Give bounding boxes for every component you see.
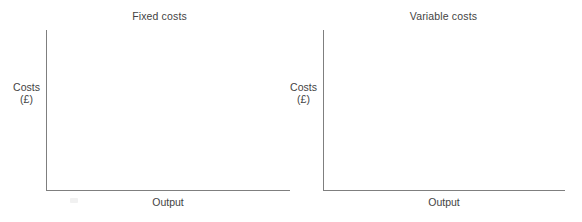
chart-title-fixed-costs: Fixed costs [0,10,291,23]
scan-artifact [70,198,78,203]
chart-title-variable-costs: Variable costs [291,10,582,23]
y-axis-unit-text: (£) [8,94,45,106]
x-axis-line-fixed-costs [46,190,290,191]
x-axis-label-variable-costs: Output [323,196,565,209]
y-axis-label-text: Costs [13,81,40,93]
x-axis-line-variable-costs [323,190,565,191]
worksheet-canvas: Fixed costs Costs (£) Output Variable co… [0,0,582,222]
y-axis-label-variable-costs: Costs (£) [285,82,322,105]
plot-area-variable-costs [324,30,565,190]
plot-area-fixed-costs [47,30,290,190]
y-axis-unit-text: (£) [285,94,322,106]
x-axis-label-fixed-costs: Output [46,196,290,209]
y-axis-label-text: Costs [290,81,317,93]
chart-variable-costs: Variable costs Costs (£) Output [291,0,582,222]
chart-fixed-costs: Fixed costs Costs (£) Output [0,0,291,222]
y-axis-label-fixed-costs: Costs (£) [8,82,45,105]
